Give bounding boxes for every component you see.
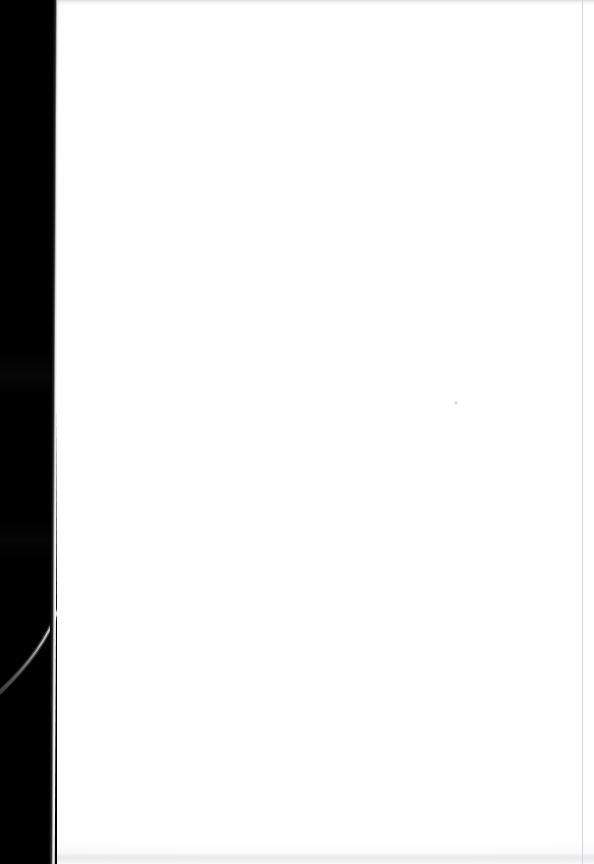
page-sheet xyxy=(57,0,594,864)
bottom-scan-band xyxy=(57,844,594,864)
toner-speck xyxy=(454,401,458,405)
scanned-page-root xyxy=(0,0,594,864)
right-margin-scan-line xyxy=(582,0,583,864)
top-scan-band xyxy=(57,0,594,6)
